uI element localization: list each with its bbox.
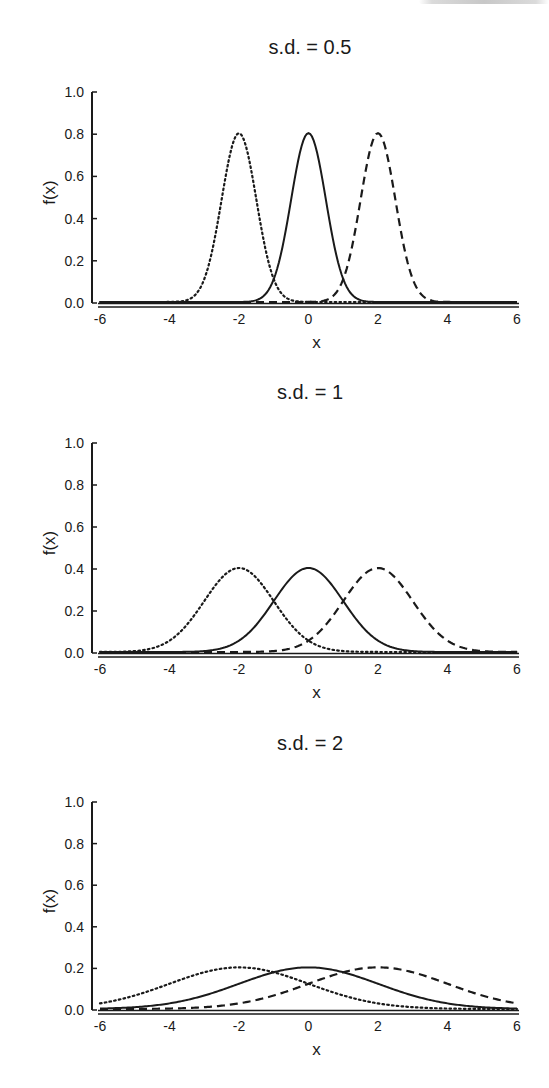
curve-solid: [100, 133, 517, 302]
x-tick-label: -4: [163, 1018, 176, 1034]
y-tick-label: 0.8: [65, 477, 85, 493]
y-tick-label: 0.4: [65, 919, 85, 935]
x-tick-label: 6: [513, 661, 521, 677]
x-tick-label: -6: [94, 1018, 107, 1034]
x-tick-label: 4: [444, 311, 452, 327]
x-tick-label: 0: [305, 1018, 313, 1034]
x-tick-label: 0: [305, 661, 313, 677]
x-tick-label: 2: [374, 311, 382, 327]
curve-dashed: [100, 133, 517, 302]
x-tick-label: -2: [233, 1018, 246, 1034]
y-tick-label: 0.6: [65, 168, 85, 184]
curve-dashed: [100, 967, 517, 1009]
normal-distribution-plots: 0.00.20.40.60.81.0-6-4-20246xf(x)0.00.20…: [0, 0, 549, 1088]
y-tick-label: 0.2: [65, 253, 85, 269]
y-tick-label: 0.8: [65, 126, 85, 142]
x-tick-label: -4: [163, 661, 176, 677]
x-tick-label: -6: [94, 311, 107, 327]
curve-dotted: [100, 133, 517, 302]
y-tick-label: 0.8: [65, 836, 85, 852]
x-tick-label: 4: [444, 661, 452, 677]
y-tick-label: 0.4: [65, 211, 85, 227]
y-tick-label: 0.6: [65, 519, 85, 535]
curve-dotted: [100, 967, 517, 1009]
x-axis-title: x: [312, 333, 321, 352]
y-tick-label: 1.0: [65, 794, 85, 810]
y-axis-title: f(x): [40, 889, 59, 914]
x-tick-label: -2: [233, 661, 246, 677]
x-tick-label: 6: [513, 1018, 521, 1034]
x-tick-label: 4: [444, 1018, 452, 1034]
x-tick-label: 0: [305, 311, 313, 327]
x-axis-title: x: [312, 1040, 321, 1059]
y-tick-label: 0.0: [65, 645, 85, 661]
y-tick-label: 0.0: [65, 295, 85, 311]
y-tick-label: 0.6: [65, 877, 85, 893]
y-tick-label: 0.0: [65, 1002, 85, 1018]
curve-solid: [100, 967, 517, 1008]
y-tick-label: 0.2: [65, 960, 85, 976]
x-tick-label: -4: [163, 311, 176, 327]
curve-dashed: [100, 568, 517, 652]
x-tick-label: 2: [374, 661, 382, 677]
x-tick-label: -2: [233, 311, 246, 327]
y-axis-title: f(x): [40, 531, 59, 556]
x-tick-label: 2: [374, 1018, 382, 1034]
x-tick-label: 6: [513, 311, 521, 327]
x-tick-label: -6: [94, 661, 107, 677]
y-axis-title: f(x): [40, 180, 59, 205]
y-tick-label: 1.0: [65, 84, 85, 100]
y-tick-label: 1.0: [65, 435, 85, 451]
y-tick-label: 0.4: [65, 561, 85, 577]
y-tick-label: 0.2: [65, 603, 85, 619]
x-axis-title: x: [312, 683, 321, 702]
